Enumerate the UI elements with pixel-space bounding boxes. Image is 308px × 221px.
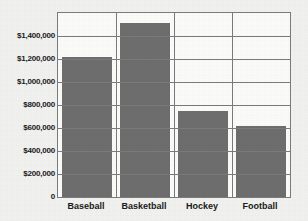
x-axis-label-hockey: Hockey [173,201,231,211]
y-axis-tick-label: $800,000 [23,100,55,109]
bar-basketball [120,23,170,197]
bar-chart: $1,400,000 $1,200,000 $1,000,000 $800,00… [0,0,308,221]
x-axis-label-baseball: Baseball [57,201,115,211]
x-axis-label-football: Football [231,201,289,211]
y-axis-tick-label: $600,000 [23,123,55,132]
category-separator [174,13,175,197]
plot-area [57,12,291,198]
bar-football [236,126,286,197]
category-separator [116,13,117,197]
category-separator [232,13,233,197]
y-axis-tick-label: $1,200,000 [17,54,55,63]
y-axis-tick-label: $1,000,000 [17,77,55,86]
bar-hockey [178,111,228,197]
bar-baseball [62,57,112,197]
y-axis-tick-label: $400,000 [23,146,55,155]
y-axis-tick-label: 0 [51,192,55,201]
y-axis-tick-label: $1,400,000 [17,31,55,40]
y-axis-tick-label: $200,000 [23,169,55,178]
x-axis-label-basketball: Basketball [115,201,173,211]
